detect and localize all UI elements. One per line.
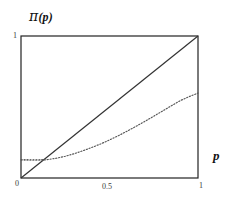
x-tick-label-0point5: 0.5	[102, 182, 112, 191]
y-tick-label-1: 1	[13, 31, 17, 40]
probability-weighting-figure: π(p) p 1 0 0.5 1	[0, 0, 240, 205]
weighting-curve	[21, 93, 198, 160]
x-tick-label-0: 0	[15, 179, 19, 188]
x-tick-label-1: 1	[199, 181, 203, 190]
plot-canvas	[0, 0, 240, 205]
x-axis-label: p	[213, 148, 220, 164]
pi-symbol: π	[29, 8, 38, 24]
identity-line	[21, 36, 198, 178]
pi-argument: (p)	[38, 10, 53, 24]
y-axis-label: π(p)	[29, 8, 53, 25]
